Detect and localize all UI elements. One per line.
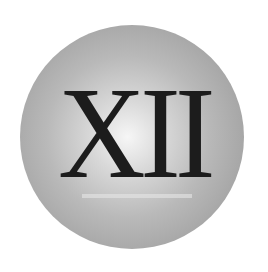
roman-numeral-twelve: XII bbox=[11, 0, 258, 272]
